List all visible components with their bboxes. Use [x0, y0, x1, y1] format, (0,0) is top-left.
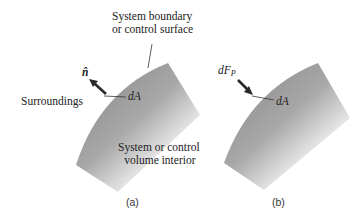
- control-volume-region-b: [224, 63, 350, 190]
- normal-vector-arrow-icon: [89, 79, 106, 94]
- boundary-label: System boundary or control surface: [112, 10, 193, 36]
- area-element-label-a: dA: [128, 90, 141, 103]
- pressure-force-label: dFP: [218, 64, 236, 80]
- interior-label: System or control volume interior: [118, 141, 200, 167]
- diagram-canvas: System boundary or control surface n̂ dA…: [0, 0, 353, 221]
- area-element-label-b: dA: [276, 95, 289, 108]
- boundary-leader-line: [148, 44, 152, 68]
- surroundings-label: Surroundings: [21, 95, 83, 108]
- normal-vector-label: n̂: [82, 66, 88, 79]
- pressure-force-arrow-icon: [238, 80, 253, 95]
- caption-b: (b): [272, 196, 285, 208]
- caption-a: (a): [126, 196, 139, 208]
